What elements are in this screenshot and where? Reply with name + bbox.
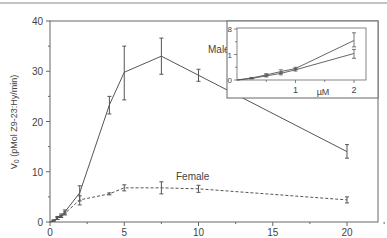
y-tick-label: 40 [32, 16, 44, 27]
x-tick-label: 20 [341, 227, 353, 238]
y-tick-label: 10 [32, 167, 44, 178]
inset-y-tick-label: 0 [228, 76, 233, 85]
error-bar [197, 69, 201, 81]
y-axis-label: V0 (pMol Z9-23:Hy/min) [9, 75, 20, 169]
error-bar [159, 38, 163, 74]
error-bar [52, 220, 56, 221]
female-label: Female [176, 171, 210, 182]
chart: 01020304005101520 V0 (pMol Z9-23:Hy/min)… [0, 0, 387, 238]
y-tick-label: 30 [32, 66, 44, 77]
y-tick-label: 20 [32, 117, 44, 128]
inset-x-unit: µM [317, 87, 330, 97]
inset-x-tick-label: 1 [293, 85, 298, 95]
inset-y-tick-label: 8 [228, 25, 233, 34]
error-bar [122, 46, 126, 100]
female-line [50, 188, 347, 222]
inset-y-tick-label: 1 [228, 51, 233, 60]
x-tick-label: 0 [47, 227, 53, 238]
inset-chart: 01812 µM [227, 21, 378, 98]
x-tick-label: 10 [193, 227, 205, 238]
y-tick-label: 0 [37, 217, 43, 228]
x-tick-label: 5 [121, 227, 127, 238]
error-bar [107, 96, 111, 114]
inset-x-tick-label: 2 [351, 85, 356, 95]
x-tick-label: 15 [267, 227, 279, 238]
error-bar [78, 196, 82, 205]
